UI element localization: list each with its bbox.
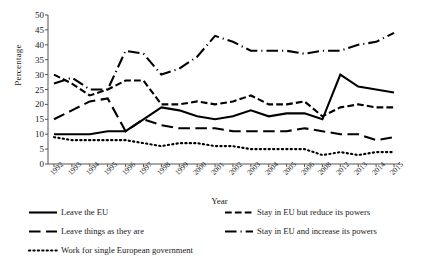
y-axis-tick: 5 (22, 145, 44, 154)
legend-item: Stay in EU and increase its powers (224, 227, 377, 236)
series-line-3 (54, 33, 394, 90)
series-line-1 (54, 75, 394, 117)
legend-label: Leave the EU (61, 208, 108, 217)
legend-label: Stay in EU and increase its powers (257, 227, 377, 236)
y-axis-tick: 25 (22, 85, 44, 94)
y-axis-tick: 40 (22, 40, 44, 49)
x-axis-tick-labels: 1992199319941995199619971998199920002001… (48, 166, 400, 200)
series-line-2 (54, 98, 394, 140)
y-axis-tick: 10 (22, 130, 44, 139)
legend-swatch-dash-long (28, 227, 58, 236)
y-axis-tick: 50 (22, 11, 44, 20)
y-axis-tick: 35 (22, 55, 44, 64)
legend-label: Work for single European government (61, 246, 193, 255)
plot-area: 05101520253035404550 (48, 15, 400, 164)
legend-item: Stay in EU but reduce its powers (224, 208, 370, 217)
y-axis-tick: 0 (22, 160, 44, 169)
legend-item: Leave things as they are (28, 227, 144, 236)
chart-legend: Leave the EUStay in EU but reduce its po… (28, 212, 439, 266)
series-line-0 (54, 75, 394, 135)
plot-svg (48, 15, 400, 164)
legend-label: Stay in EU but reduce its powers (257, 208, 370, 217)
chart-figure: Percentage 05101520253035404550 19921993… (0, 0, 439, 266)
legend-label: Leave things as they are (61, 227, 144, 236)
legend-swatch-dotted (28, 246, 58, 255)
legend-swatch-solid (28, 208, 58, 217)
legend-item: Work for single European government (28, 246, 193, 255)
y-axis-tick: 30 (22, 70, 44, 79)
legend-swatch-dash-dot (224, 227, 254, 236)
y-axis-tick: 45 (22, 25, 44, 34)
legend-item: Leave the EU (28, 208, 108, 217)
series-line-4 (54, 137, 394, 155)
y-axis-tick: 20 (22, 100, 44, 109)
legend-swatch-dash-medium (224, 208, 254, 217)
x-axis-title: Year (0, 196, 439, 206)
y-axis-tick: 15 (22, 115, 44, 124)
